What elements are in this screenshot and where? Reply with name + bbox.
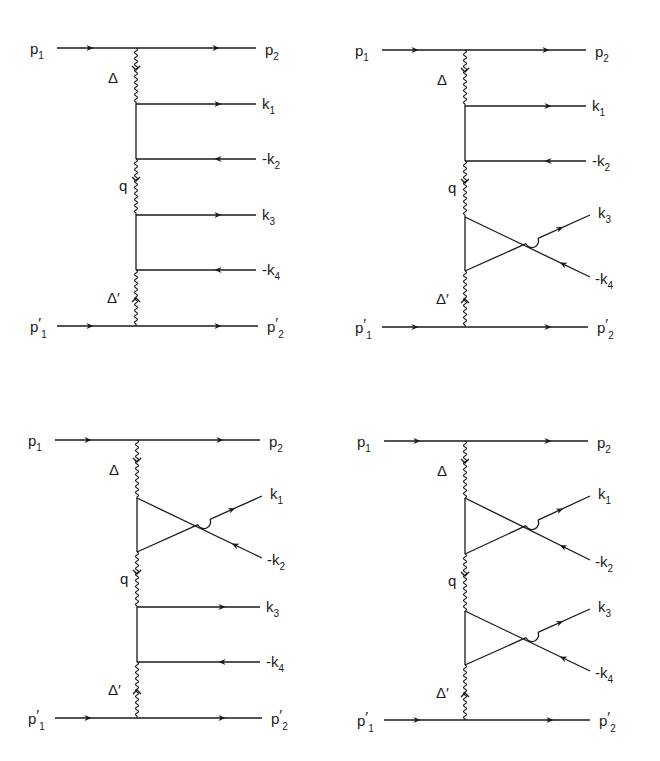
delta-exchange-line bbox=[464, 50, 467, 106]
label-k1: k1 bbox=[592, 97, 606, 118]
label-q: q bbox=[119, 177, 127, 194]
label-k3: k3 bbox=[598, 204, 612, 225]
label-delta-prime: Δ′ bbox=[436, 684, 449, 701]
label-q: q bbox=[448, 572, 456, 589]
label-p1-prime: p′1 bbox=[28, 706, 45, 732]
diagram-top-left: k1-k2k3-k4p1p2p′1p′2ΔqΔ′ bbox=[30, 40, 284, 340]
label-k2: -k2 bbox=[592, 152, 611, 173]
outgoing-k1-line bbox=[137, 525, 198, 552]
delta-exchange-line bbox=[464, 441, 467, 498]
label-k1: k1 bbox=[270, 485, 284, 506]
q-exchange-line bbox=[464, 554, 467, 611]
outgoing-k1-line bbox=[465, 526, 526, 554]
delta-exchange-line bbox=[135, 48, 138, 104]
label-p1-prime: p′1 bbox=[30, 314, 47, 340]
label-p1: p1 bbox=[30, 40, 44, 61]
outgoing-k1-line bbox=[538, 496, 590, 520]
label-p2: p2 bbox=[265, 41, 279, 62]
label-delta-prime: Δ′ bbox=[436, 290, 449, 307]
incoming-k2-line bbox=[465, 498, 590, 560]
label-k1: k1 bbox=[598, 485, 612, 506]
crossing-hop bbox=[526, 632, 539, 641]
label-k2: -k2 bbox=[267, 551, 286, 572]
q-exchange-line bbox=[136, 552, 139, 607]
label-k4: -k4 bbox=[262, 261, 281, 282]
feynman-diagrams-figure: k1-k2k3-k4p1p2p′1p′2ΔqΔ′ k1-k2k3-k4p1p2p… bbox=[0, 0, 660, 761]
label-q: q bbox=[120, 570, 128, 587]
label-p2-prime: p′2 bbox=[599, 708, 616, 734]
diagram-top-right: k1-k2k3-k4p1p2p′1p′2ΔqΔ′ bbox=[355, 42, 614, 341]
label-k4: -k4 bbox=[595, 664, 614, 685]
label-delta: Δ bbox=[108, 69, 118, 86]
label-k4: -k4 bbox=[595, 270, 614, 291]
label-p2-prime: p′2 bbox=[267, 314, 284, 340]
outgoing-k3-line bbox=[465, 638, 526, 665]
label-delta-prime: Δ′ bbox=[107, 289, 120, 306]
crossing-hop bbox=[198, 519, 211, 528]
label-p2: p2 bbox=[269, 433, 283, 454]
label-q: q bbox=[448, 179, 456, 196]
label-p1: p1 bbox=[355, 42, 369, 63]
label-k4: -k4 bbox=[266, 653, 285, 674]
q-exchange-line bbox=[135, 159, 138, 215]
incoming-k2-line bbox=[137, 498, 262, 558]
outgoing-k3-line bbox=[465, 244, 526, 271]
delta-exchange-line bbox=[136, 440, 139, 498]
incoming-k4-line bbox=[465, 611, 590, 671]
label-k2: -k2 bbox=[262, 150, 281, 171]
label-k3: k3 bbox=[266, 598, 280, 619]
label-k1: k1 bbox=[262, 95, 276, 116]
label-p1-prime: p′1 bbox=[355, 315, 372, 341]
crossing-hop bbox=[526, 520, 539, 529]
label-k2: -k2 bbox=[595, 553, 614, 574]
label-p1: p1 bbox=[357, 433, 371, 454]
label-p1-prime: p′1 bbox=[357, 708, 374, 734]
label-delta-prime: Δ′ bbox=[108, 681, 121, 698]
label-p2-prime: p′2 bbox=[597, 315, 614, 341]
label-k3: k3 bbox=[598, 598, 612, 619]
incoming-k4-line bbox=[465, 217, 590, 277]
label-p2: p2 bbox=[597, 434, 611, 455]
diagram-bottom-right: k1-k2k3-k4p1p2p′1p′2ΔqΔ′ bbox=[357, 433, 616, 734]
outgoing-k1-line bbox=[210, 496, 262, 519]
label-p2: p2 bbox=[595, 43, 609, 64]
crossing-hop bbox=[526, 238, 539, 247]
label-p2-prime: p′2 bbox=[271, 706, 288, 732]
label-delta: Δ bbox=[437, 71, 447, 88]
outgoing-k3-line bbox=[538, 609, 590, 632]
diagram-bottom-left: k1-k2k3-k4p1p2p′1p′2ΔqΔ′ bbox=[28, 432, 288, 732]
label-delta: Δ bbox=[109, 461, 119, 478]
outgoing-k3-line bbox=[538, 215, 590, 238]
label-p1: p1 bbox=[28, 432, 42, 453]
q-exchange-line bbox=[464, 161, 467, 217]
label-delta: Δ bbox=[437, 462, 447, 479]
label-k3: k3 bbox=[262, 206, 276, 227]
